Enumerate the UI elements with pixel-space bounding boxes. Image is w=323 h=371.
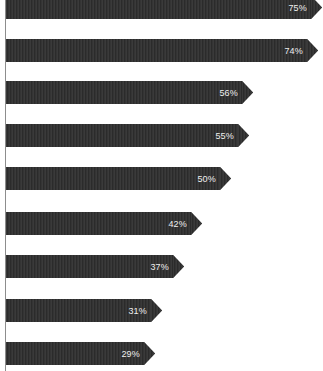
bar-chart: 75% 74% 56% 55% 50% 42% xyxy=(0,0,323,371)
chart-bar-body xyxy=(6,0,311,19)
chart-bar-value-label: 74% xyxy=(284,46,303,55)
chart-bar-row: 37% xyxy=(0,255,323,278)
chart-bar-value-label: 56% xyxy=(219,88,238,97)
chart-bar-value-label: 75% xyxy=(288,3,307,12)
chart-bar-arrow-head xyxy=(151,299,162,322)
chart-bar-value-label: 42% xyxy=(168,219,187,228)
chart-bar-row: 29% xyxy=(0,342,323,365)
chart-plot-area: 75% 74% 56% 55% 50% 42% xyxy=(0,0,323,371)
chart-bar-row: 74% xyxy=(0,39,323,62)
chart-bar-value-label: 50% xyxy=(197,174,216,183)
chart-bar-value-label: 31% xyxy=(128,306,147,315)
chart-bar-body xyxy=(6,124,238,147)
chart-bar-row: 56% xyxy=(0,81,323,104)
chart-bar-arrow-head xyxy=(220,167,231,190)
chart-bar-value-label: 29% xyxy=(121,349,140,358)
chart-bar-row: 75% xyxy=(0,0,323,19)
chart-bar-body xyxy=(6,255,173,278)
chart-bar-row: 42% xyxy=(0,212,323,235)
chart-bar-row: 55% xyxy=(0,124,323,147)
chart-bar-value-label: 37% xyxy=(150,262,169,271)
chart-bar-arrow-head xyxy=(191,212,202,235)
chart-bar-arrow-head xyxy=(144,342,155,365)
chart-bar-body xyxy=(6,212,191,235)
chart-bar-arrow-head xyxy=(173,255,184,278)
chart-bar-body xyxy=(6,39,307,62)
category-axis-line xyxy=(5,0,6,371)
chart-bar-arrow-head xyxy=(238,124,249,147)
chart-bar-row: 31% xyxy=(0,299,323,322)
chart-bar-body xyxy=(6,81,242,104)
chart-bar-arrow-head xyxy=(311,0,322,19)
chart-bar-arrow-head xyxy=(242,81,253,104)
chart-bar-arrow-head xyxy=(307,39,318,62)
chart-bar-row: 50% xyxy=(0,167,323,190)
chart-bar-value-label: 55% xyxy=(215,131,234,140)
chart-bar-body xyxy=(6,167,220,190)
